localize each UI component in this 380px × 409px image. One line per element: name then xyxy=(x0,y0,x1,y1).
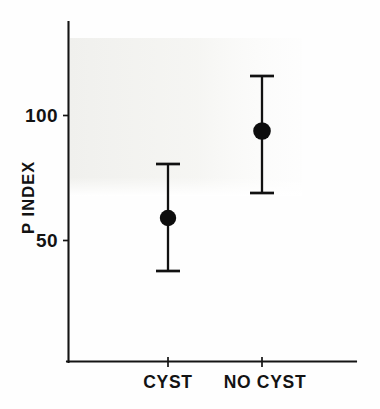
y-axis-title: P INDEX xyxy=(19,161,37,234)
y-tick-label-50: 50 xyxy=(36,230,58,251)
chart-figure: 100 50 P INDEX CYST NO CYST xyxy=(0,0,380,409)
x-category-label-no-cyst: NO CYST xyxy=(224,372,307,392)
chart-plot-area: 100 50 P INDEX CYST NO CYST xyxy=(0,0,380,409)
background-shade-group xyxy=(70,38,302,196)
y-tick-label-100: 100 xyxy=(25,105,58,126)
background-shade-fade xyxy=(70,38,302,196)
marker-dot-cyst xyxy=(160,210,176,226)
marker-dot-no-cyst xyxy=(253,122,271,140)
x-category-label-cyst: CYST xyxy=(143,372,192,392)
